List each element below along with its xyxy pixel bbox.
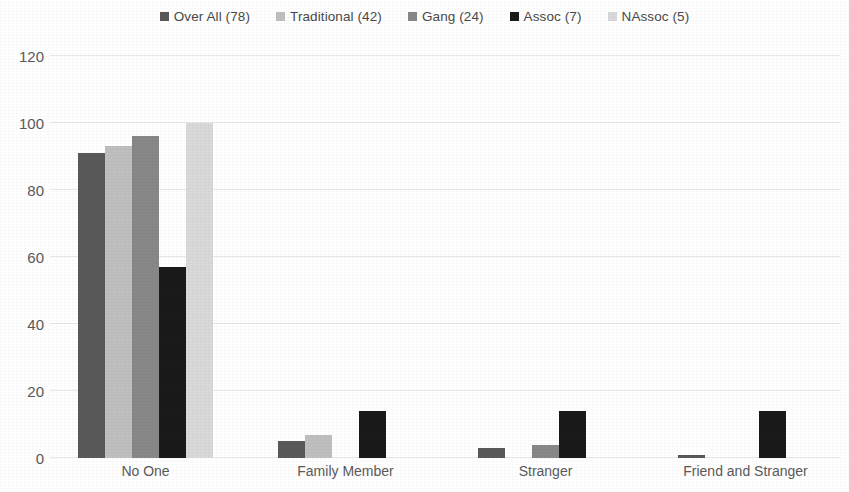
legend-label: Traditional (42) <box>290 9 382 24</box>
y-axis-tick-label: 100 <box>2 115 44 132</box>
bar[interactable] <box>186 123 213 458</box>
x-axis-tick-label: Friend and Stranger <box>683 463 808 479</box>
bar[interactable] <box>532 445 559 458</box>
plot-area <box>50 56 840 458</box>
y-axis-tick-label: 60 <box>2 249 44 266</box>
legend-swatch-icon <box>608 12 617 21</box>
y-axis-tick-label: 20 <box>2 383 44 400</box>
legend-label: NAssoc (5) <box>622 9 690 24</box>
y-axis-tick-label: 40 <box>2 316 44 333</box>
legend-item[interactable]: Assoc (7) <box>510 9 582 24</box>
x-axis-tick-label: No One <box>121 463 169 479</box>
bar[interactable] <box>678 455 705 458</box>
x-axis-tick-label: Family Member <box>297 463 393 479</box>
bar[interactable] <box>132 136 159 458</box>
legend-item[interactable]: Traditional (42) <box>276 9 382 24</box>
y-axis-tick-label: 0 <box>2 450 44 467</box>
x-axis: No OneFamily MemberStrangerFriend and St… <box>50 463 840 489</box>
bar[interactable] <box>78 153 105 458</box>
chart-legend: Over All (78)Traditional (42)Gang (24)As… <box>0 5 849 27</box>
bar[interactable] <box>759 411 786 458</box>
bar[interactable] <box>159 267 186 458</box>
legend-item[interactable]: Gang (24) <box>408 9 484 24</box>
bar[interactable] <box>559 411 586 458</box>
bar[interactable] <box>105 146 132 458</box>
bar[interactable] <box>305 435 332 458</box>
bar-chart: Over All (78)Traditional (42)Gang (24)As… <box>0 0 849 492</box>
bar[interactable] <box>359 411 386 458</box>
bar-cluster <box>78 56 213 458</box>
bar-cluster <box>278 56 413 458</box>
bar[interactable] <box>278 441 305 458</box>
legend-label: Gang (24) <box>422 9 484 24</box>
legend-item[interactable]: Over All (78) <box>160 9 250 24</box>
legend-swatch-icon <box>408 12 417 21</box>
bar-cluster <box>478 56 613 458</box>
legend-swatch-icon <box>276 12 285 21</box>
y-axis-tick-label: 80 <box>2 182 44 199</box>
legend-item[interactable]: NAssoc (5) <box>608 9 690 24</box>
bar-cluster <box>678 56 813 458</box>
y-axis-tick-label: 120 <box>2 48 44 65</box>
bar[interactable] <box>478 448 505 458</box>
legend-label: Over All (78) <box>174 9 250 24</box>
legend-swatch-icon <box>160 12 169 21</box>
x-axis-tick-label: Stranger <box>519 463 573 479</box>
legend-swatch-icon <box>510 12 519 21</box>
legend-label: Assoc (7) <box>524 9 582 24</box>
y-axis: 020406080100120 <box>0 56 44 458</box>
